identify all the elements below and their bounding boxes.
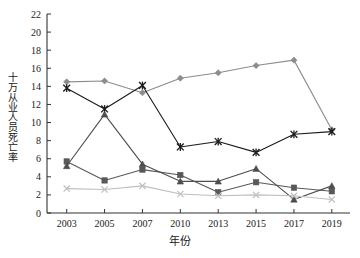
data-point-diamond <box>101 78 107 84</box>
svg-text:2: 2 <box>36 189 41 200</box>
svg-text:2003: 2003 <box>57 218 77 229</box>
svg-text:0: 0 <box>36 208 41 219</box>
data-point-diamond <box>139 90 145 96</box>
svg-text:18: 18 <box>31 45 41 56</box>
svg-text:10: 10 <box>31 117 41 128</box>
data-point-triangle <box>329 183 335 189</box>
data-point-diamond <box>215 70 221 76</box>
svg-text:22: 22 <box>31 9 41 20</box>
plot-area: 0246810121416182022200320052007201020132… <box>0 0 360 258</box>
svg-text:2019: 2019 <box>322 218 342 229</box>
chart-svg: 0246810121416182022200320052007201020132… <box>0 0 360 258</box>
svg-text:8: 8 <box>36 135 41 146</box>
svg-text:2017: 2017 <box>284 218 304 229</box>
svg-text:20: 20 <box>31 27 41 38</box>
data-point-diamond <box>177 75 183 81</box>
x-axis-ticks: 20032005200720102013201520172019 <box>57 209 342 229</box>
y-axis-ticks: 0246810121416182022 <box>31 9 51 219</box>
svg-text:2015: 2015 <box>246 218 266 229</box>
data-point-square <box>178 172 183 177</box>
data-point-diamond <box>64 79 70 85</box>
data-point-triangle <box>253 165 259 171</box>
data-point-diamond <box>291 57 297 63</box>
chart-root: 十万从业人员死亡率 024681012141618202220032005200… <box>0 0 360 258</box>
line-series-asterisk <box>63 82 335 157</box>
x-axis-title: 年份 <box>0 232 360 248</box>
data-point-square <box>102 178 107 183</box>
data-point-square <box>329 189 334 194</box>
svg-text:6: 6 <box>36 153 41 164</box>
data-point-diamond <box>253 62 259 68</box>
svg-text:2005: 2005 <box>95 218 115 229</box>
svg-text:4: 4 <box>36 171 41 182</box>
svg-text:2013: 2013 <box>208 218 228 229</box>
line-series-diamond <box>64 57 335 133</box>
data-point-asterisk <box>139 82 146 90</box>
svg-text:16: 16 <box>31 63 41 74</box>
data-point-square <box>140 167 145 172</box>
data-point-square <box>253 180 258 185</box>
svg-text:2010: 2010 <box>170 218 190 229</box>
data-point-asterisk <box>253 148 260 156</box>
data-point-asterisk <box>63 84 70 92</box>
svg-text:12: 12 <box>31 99 41 110</box>
data-point-square <box>291 185 296 190</box>
svg-text:14: 14 <box>31 81 41 92</box>
svg-text:2007: 2007 <box>132 218 152 229</box>
